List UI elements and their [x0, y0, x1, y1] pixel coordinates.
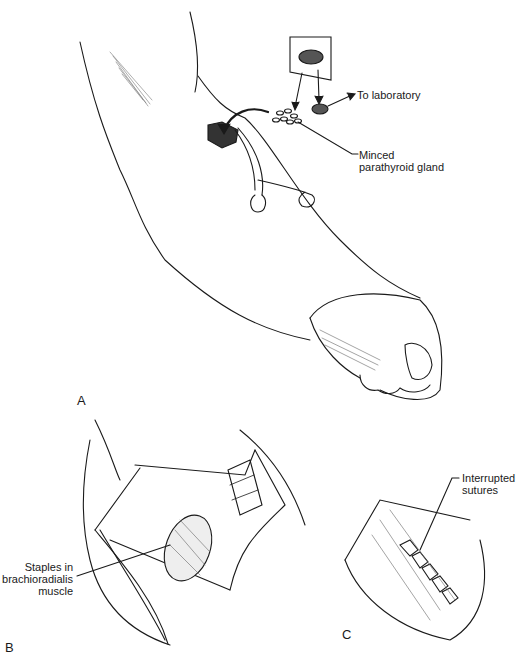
- label-minced-line2: parathyroid gland: [359, 161, 444, 173]
- arm-outline: [80, 12, 420, 340]
- medical-illustration: [0, 0, 530, 662]
- label-staples-line1: Staples in: [0, 561, 73, 573]
- label-staples-line2: brachioradialis: [0, 573, 73, 585]
- panel-label-c: C: [342, 627, 351, 642]
- label-interrupted-line1: Interrupted: [462, 472, 515, 484]
- gland-card: [273, 37, 359, 154]
- label-minced-line1: Minced: [359, 149, 394, 161]
- panel-b-field: [77, 420, 305, 645]
- panel-label-a: A: [77, 393, 86, 408]
- label-to-laboratory: To laboratory: [357, 89, 421, 101]
- panel-c-field: [345, 478, 485, 640]
- incision-retractor: [208, 109, 314, 212]
- label-staples-line3: muscle: [0, 585, 73, 597]
- label-interrupted-line2: sutures: [462, 484, 498, 496]
- panel-label-b: B: [5, 640, 14, 655]
- hand-fist: [310, 294, 442, 400]
